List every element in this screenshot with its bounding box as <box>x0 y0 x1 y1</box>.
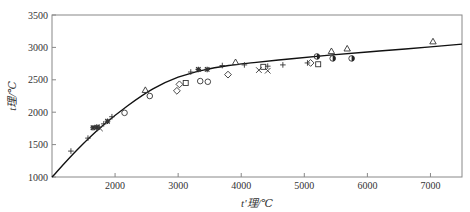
data-point <box>232 59 238 65</box>
data-point <box>183 81 188 86</box>
x-tick-label: 2000 <box>105 180 125 191</box>
y-tick-label: 2500 <box>28 74 48 85</box>
data-point <box>205 79 211 85</box>
y-tick-label: 3000 <box>28 42 48 53</box>
data-point <box>197 78 203 84</box>
data-point <box>68 148 74 154</box>
y-axis-label: t理/℃ <box>6 81 18 111</box>
data-point <box>173 87 180 94</box>
data-point <box>176 81 183 88</box>
x-tick-label: 4000 <box>231 180 251 191</box>
data-point <box>122 110 128 116</box>
y-tick-label: 1500 <box>28 139 48 150</box>
scatter-chart: 2000300040005000600070001000150020002500… <box>0 0 470 212</box>
data-point <box>430 38 436 44</box>
plot-frame <box>52 15 462 177</box>
x-tick-label: 6000 <box>357 180 377 191</box>
data-points <box>68 38 436 154</box>
data-point <box>105 118 111 124</box>
x-axis-label: t'理/℃ <box>241 197 273 209</box>
data-point <box>142 87 148 93</box>
data-point <box>328 48 334 54</box>
chart-svg: 2000300040005000600070001000150020002500… <box>0 0 470 212</box>
y-tick-label: 1000 <box>28 172 48 183</box>
data-point <box>225 71 232 78</box>
axes: 2000300040005000600070001000150020002500… <box>28 10 462 192</box>
y-tick-label: 2000 <box>28 107 48 118</box>
x-tick-label: 7000 <box>420 180 440 191</box>
data-point <box>85 135 91 141</box>
data-point <box>147 93 153 99</box>
x-tick-label: 5000 <box>294 180 314 191</box>
fit-curve <box>52 44 462 177</box>
data-point <box>344 45 350 51</box>
data-point <box>204 67 210 73</box>
data-point <box>196 67 202 73</box>
x-tick-label: 3000 <box>168 180 188 191</box>
y-tick-label: 3500 <box>28 10 48 21</box>
data-point <box>316 62 321 67</box>
data-point <box>280 62 286 68</box>
